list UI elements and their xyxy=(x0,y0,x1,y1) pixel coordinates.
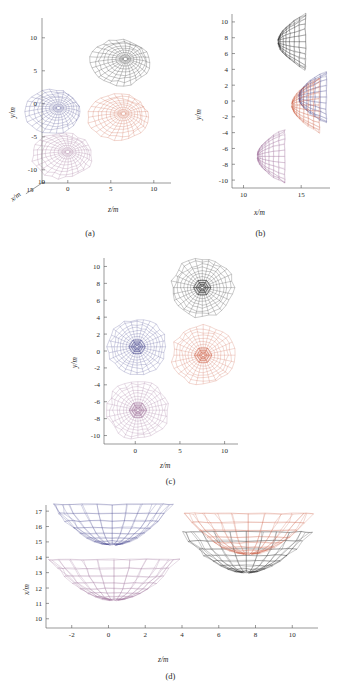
svg-text:0: 0 xyxy=(134,447,138,455)
panel-a-plot: 1050-5-1005101510 xyxy=(0,0,180,225)
svg-text:10: 10 xyxy=(221,18,229,26)
svg-text:0: 0 xyxy=(107,631,111,639)
svg-text:15: 15 xyxy=(27,186,35,194)
svg-text:0: 0 xyxy=(34,100,38,108)
svg-text:16: 16 xyxy=(35,523,43,531)
svg-text:8: 8 xyxy=(97,280,101,288)
svg-text:0: 0 xyxy=(225,98,229,106)
svg-text:4: 4 xyxy=(225,66,229,74)
panel-d-z-axis-label: z/m xyxy=(158,655,168,664)
svg-text:2: 2 xyxy=(225,82,229,90)
panel-a-z-axis-label: z/m xyxy=(108,205,118,214)
svg-text:15: 15 xyxy=(35,538,43,546)
svg-text:-8: -8 xyxy=(94,415,100,423)
panel-b-y-axis-label: y/m xyxy=(194,109,203,120)
svg-text:-10: -10 xyxy=(219,177,229,185)
svg-text:-5: -5 xyxy=(31,133,37,141)
panel-c-z-axis-label: z/m xyxy=(160,461,170,470)
svg-text:10: 10 xyxy=(221,447,229,455)
svg-text:-6: -6 xyxy=(222,145,228,153)
svg-text:-6: -6 xyxy=(94,398,100,406)
panel-b-plot: 1086420-2-4-6-8-101015 xyxy=(180,0,341,220)
svg-text:0: 0 xyxy=(97,348,101,356)
svg-text:10: 10 xyxy=(35,615,43,623)
svg-text:10: 10 xyxy=(289,631,297,639)
svg-text:10: 10 xyxy=(38,178,46,186)
svg-text:-8: -8 xyxy=(222,161,228,169)
panel-c-caption: (c) xyxy=(0,476,341,486)
panel-a-caption: (a) xyxy=(0,228,180,238)
svg-text:10: 10 xyxy=(150,185,158,193)
svg-text:13: 13 xyxy=(35,569,43,577)
panel-d: 1716151413121110-20246810 x/m z/m (d) xyxy=(0,495,341,690)
svg-text:-2: -2 xyxy=(94,364,100,372)
svg-text:14: 14 xyxy=(35,554,43,562)
panel-a-y-axis-label: y/m xyxy=(8,107,17,118)
svg-text:6: 6 xyxy=(217,631,221,639)
svg-text:-10: -10 xyxy=(91,432,101,440)
svg-text:8: 8 xyxy=(225,34,229,42)
panel-d-plot: 1716151413121110-20246810 xyxy=(0,495,341,655)
svg-text:-10: -10 xyxy=(28,166,38,174)
panel-c: 1086420-2-4-6-8-100510 y/m z/m (c) xyxy=(0,248,341,493)
svg-text:2: 2 xyxy=(97,331,101,339)
svg-text:5: 5 xyxy=(178,447,182,455)
svg-text:5: 5 xyxy=(109,185,113,193)
svg-text:8: 8 xyxy=(254,631,258,639)
svg-text:4: 4 xyxy=(97,314,101,322)
panel-b-x-axis-label: x/m xyxy=(254,208,265,217)
panel-b: 1086420-2-4-6-8-101015 y/m x/m (b) xyxy=(180,0,341,240)
svg-text:-2: -2 xyxy=(222,113,228,121)
panel-a: 1050-5-1005101510 y/m z/m x/m (a) xyxy=(0,0,180,240)
svg-text:12: 12 xyxy=(35,585,43,593)
svg-text:-2: -2 xyxy=(69,631,75,639)
svg-text:11: 11 xyxy=(35,600,42,608)
svg-text:15: 15 xyxy=(298,191,306,199)
figure-root: 1050-5-1005101510 y/m z/m x/m (a) 108642… xyxy=(0,0,341,690)
svg-text:-4: -4 xyxy=(222,129,228,137)
panel-c-y-axis-label: y/m xyxy=(70,357,79,368)
panel-d-x-axis-label: x/m xyxy=(22,584,31,595)
panel-b-caption: (b) xyxy=(180,228,341,238)
svg-text:17: 17 xyxy=(35,508,43,516)
svg-text:6: 6 xyxy=(97,297,101,305)
svg-text:2: 2 xyxy=(143,631,147,639)
svg-text:10: 10 xyxy=(93,263,101,271)
svg-text:10: 10 xyxy=(30,34,38,42)
svg-text:10: 10 xyxy=(240,191,248,199)
panel-c-plot: 1086420-2-4-6-8-100510 xyxy=(0,248,341,470)
panel-d-caption: (d) xyxy=(0,671,341,681)
svg-text:5: 5 xyxy=(34,67,38,75)
svg-text:0: 0 xyxy=(66,185,70,193)
svg-text:4: 4 xyxy=(180,631,184,639)
svg-text:-4: -4 xyxy=(94,381,100,389)
svg-text:6: 6 xyxy=(225,50,229,58)
